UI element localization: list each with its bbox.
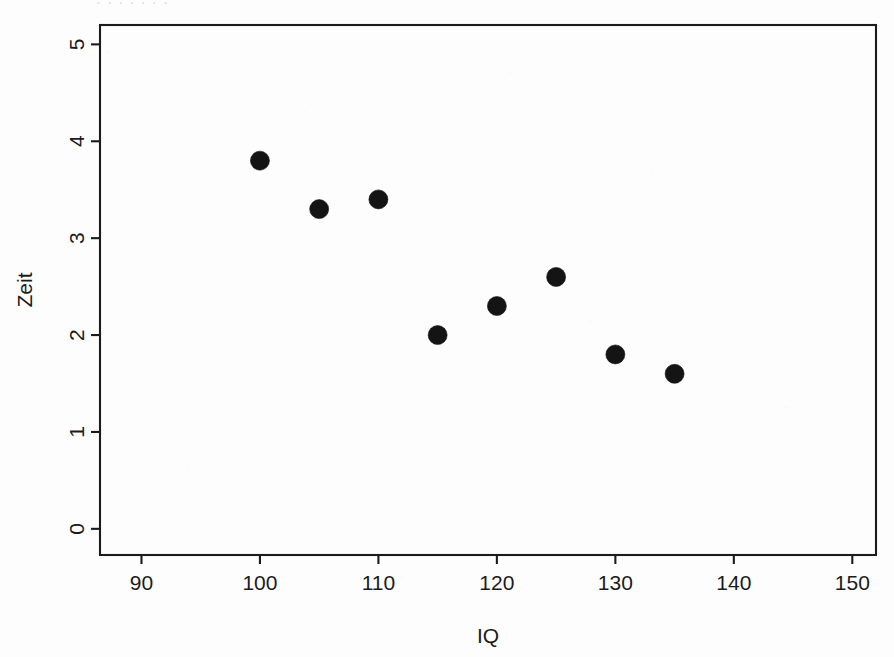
y-tick-label: 1 <box>66 426 89 438</box>
x-tick-label: 150 <box>835 571 870 594</box>
x-tick-label: 100 <box>242 571 277 594</box>
y-tick-label: 4 <box>66 135 89 147</box>
y-axis-title: Zeit <box>13 272 36 307</box>
scatter-plot-figure: · · · · · · · 90100110120130140150 01234… <box>0 0 894 657</box>
data-point <box>250 151 269 170</box>
x-tick-label: 130 <box>598 571 633 594</box>
y-tick-label: 0 <box>66 523 89 535</box>
data-point <box>369 190 388 209</box>
data-point <box>606 345 625 364</box>
data-point <box>547 267 566 286</box>
data-point <box>665 364 684 383</box>
x-tick-label: 140 <box>716 571 751 594</box>
data-point <box>428 326 447 345</box>
x-axis-title: IQ <box>477 624 499 647</box>
y-tick-label: 3 <box>66 232 89 244</box>
x-tick-label: 110 <box>362 571 395 594</box>
data-point <box>487 296 506 315</box>
y-axis-ticks: 012345 <box>66 39 101 535</box>
data-point <box>310 200 329 219</box>
x-tick-label: 90 <box>130 571 153 594</box>
x-axis-ticks: 90100110120130140150 <box>130 555 870 594</box>
y-tick-label: 2 <box>66 329 89 341</box>
plot-canvas: 90100110120130140150 012345 IQ Zeit <box>0 0 894 657</box>
data-point-series <box>250 151 684 383</box>
x-tick-label: 120 <box>479 571 514 594</box>
y-tick-label: 5 <box>66 39 89 51</box>
plot-frame-box <box>100 25 876 555</box>
